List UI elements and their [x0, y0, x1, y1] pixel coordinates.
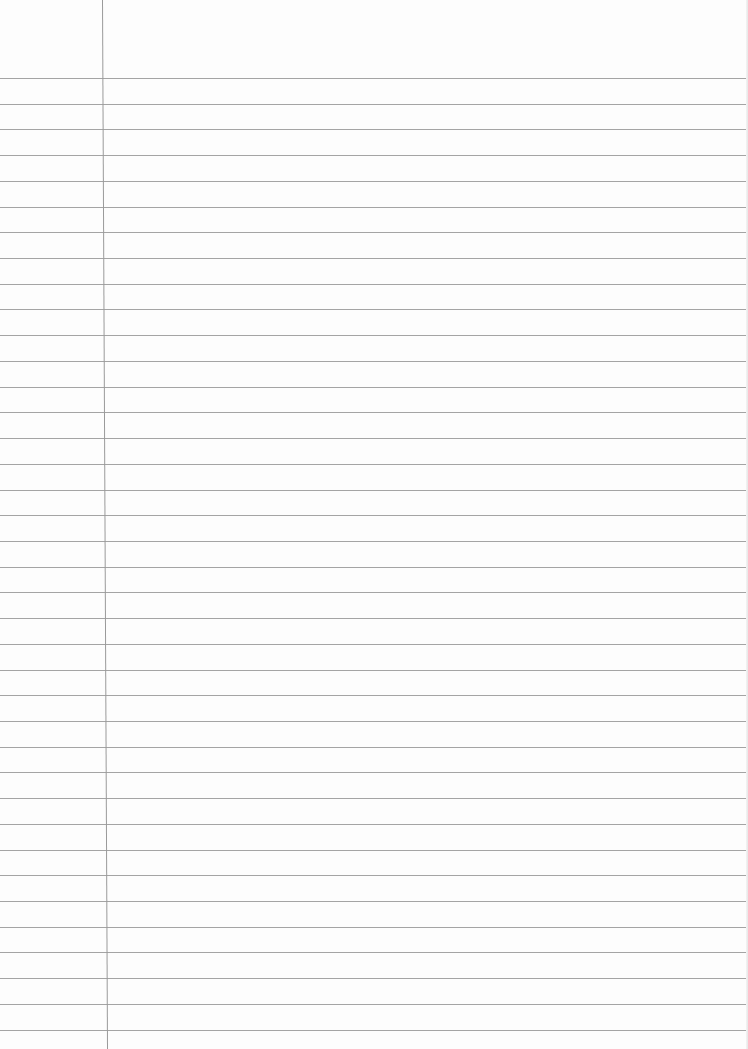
- ruled-line: [0, 747, 748, 748]
- ruled-line: [0, 412, 748, 413]
- ruled-line: [0, 695, 748, 696]
- ruled-line: [0, 875, 748, 876]
- ruled-line: [0, 207, 748, 208]
- ruled-line: [0, 644, 748, 645]
- ruled-line: [0, 78, 748, 79]
- ruled-line: [0, 490, 748, 491]
- ruled-line: [0, 232, 748, 233]
- ruled-line: [0, 258, 748, 259]
- ruled-line: [0, 155, 748, 156]
- ruled-line: [0, 567, 748, 568]
- ruled-line: [0, 618, 748, 619]
- ruled-line: [0, 129, 748, 130]
- ruled-line: [0, 927, 748, 928]
- ruled-line: [0, 1030, 748, 1031]
- ruled-line: [0, 978, 748, 979]
- ruled-line: [0, 335, 748, 336]
- ruled-line: [0, 361, 748, 362]
- ruled-line: [0, 541, 748, 542]
- ruled-line: [0, 798, 748, 799]
- ruled-line: [0, 952, 748, 953]
- ruled-line: [0, 772, 748, 773]
- ruled-line: [0, 104, 748, 105]
- ruled-line: [0, 515, 748, 516]
- ruled-line: [0, 721, 748, 722]
- ruled-line: [0, 309, 748, 310]
- ruled-line: [0, 438, 748, 439]
- ruled-line: [0, 901, 748, 902]
- margin-line: [102, 0, 108, 1049]
- lined-paper-sheet: [0, 0, 748, 1049]
- ruled-line: [0, 284, 748, 285]
- ruled-line: [0, 850, 748, 851]
- ruled-line: [0, 824, 748, 825]
- ruled-line: [0, 1004, 748, 1005]
- ruled-line: [0, 387, 748, 388]
- ruled-line: [0, 464, 748, 465]
- ruled-line: [0, 181, 748, 182]
- ruled-line: [0, 592, 748, 593]
- ruled-line: [0, 670, 748, 671]
